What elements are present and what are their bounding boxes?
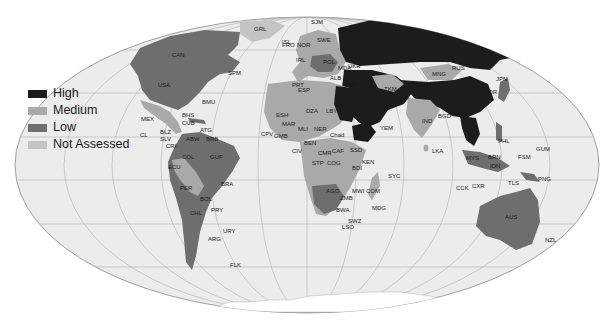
svg-text:TKM: TKM: [384, 86, 397, 92]
svg-text:MWI: MWI: [352, 188, 365, 194]
svg-text:ECU: ECU: [168, 164, 181, 170]
svg-text:YEM: YEM: [380, 125, 393, 131]
legend-swatch-high: [28, 90, 47, 98]
world-map: GRL ISL SJM CAN USA SPM BMU MEX BHS CUB …: [0, 0, 615, 329]
svg-text:RUS: RUS: [452, 65, 465, 71]
region-new-zealand: [558, 252, 572, 266]
svg-text:GMB: GMB: [274, 133, 288, 139]
svg-text:IRL: IRL: [296, 57, 306, 63]
svg-text:COM: COM: [366, 188, 380, 194]
svg-text:MEX: MEX: [141, 116, 154, 122]
svg-text:LSO: LSO: [342, 224, 354, 230]
legend-label-not-assessed: Not Assessed: [53, 136, 129, 153]
svg-text:BRB: BRB: [206, 136, 218, 142]
legend-swatch-not-assessed: [28, 141, 47, 149]
svg-text:BWA: BWA: [336, 207, 349, 213]
svg-text:ATG: ATG: [200, 127, 212, 133]
svg-text:NZL: NZL: [545, 237, 557, 243]
svg-text:SLV: SLV: [160, 136, 171, 142]
legend-item-medium: Medium: [28, 102, 129, 119]
svg-text:BHS: BHS: [182, 112, 194, 118]
svg-text:ABW: ABW: [186, 136, 200, 142]
svg-text:SWE: SWE: [317, 37, 331, 43]
svg-text:SYC: SYC: [388, 173, 401, 179]
svg-text:CHL: CHL: [190, 210, 203, 216]
svg-text:ALB: ALB: [330, 75, 341, 81]
svg-text:FLK: FLK: [230, 262, 241, 268]
svg-text:CMR: CMR: [318, 150, 332, 156]
svg-text:CPV: CPV: [261, 131, 273, 137]
svg-text:LKA: LKA: [432, 148, 443, 154]
legend-swatch-medium: [28, 107, 47, 115]
svg-text:IDN: IDN: [490, 163, 500, 169]
svg-text:POL: POL: [323, 59, 336, 65]
svg-text:ESP: ESP: [298, 87, 310, 93]
svg-text:CAN: CAN: [172, 52, 185, 58]
svg-text:PRY: PRY: [211, 207, 223, 213]
svg-text:CUB: CUB: [182, 120, 195, 126]
svg-text:MNG: MNG: [432, 71, 446, 77]
svg-text:FRO: FRO: [282, 42, 295, 48]
legend-label-high: High: [53, 85, 79, 102]
svg-text:NER: NER: [314, 126, 327, 132]
svg-text:FSM: FSM: [518, 154, 531, 160]
svg-text:GUF: GUF: [210, 154, 223, 160]
legend-label-low: Low: [53, 119, 76, 136]
svg-text:CHN: CHN: [442, 93, 455, 99]
svg-text:CL: CL: [140, 132, 148, 138]
svg-text:GRL: GRL: [254, 26, 267, 32]
svg-text:AFG: AFG: [396, 95, 409, 101]
svg-text:SPM: SPM: [228, 70, 241, 76]
svg-text:IND: IND: [422, 118, 433, 124]
svg-text:JPN: JPN: [496, 76, 507, 82]
legend-item-high: High: [28, 85, 129, 102]
legend-item-low: Low: [28, 119, 129, 136]
svg-text:DZA: DZA: [306, 108, 318, 114]
svg-text:BDI: BDI: [352, 165, 362, 171]
svg-text:MYS: MYS: [466, 155, 479, 161]
svg-text:BRN: BRN: [488, 154, 501, 160]
svg-text:KOR: KOR: [484, 89, 498, 95]
svg-text:AUS: AUS: [505, 214, 517, 220]
svg-text:BOL: BOL: [200, 196, 213, 202]
svg-text:Chad: Chad: [330, 132, 344, 138]
svg-text:SJM: SJM: [311, 19, 323, 25]
svg-text:ARG: ARG: [208, 236, 221, 242]
svg-text:ZMB: ZMB: [340, 195, 353, 201]
svg-text:MAR: MAR: [282, 121, 296, 127]
map-legend: High Medium Low Not Assessed: [28, 85, 129, 153]
svg-text:BGD: BGD: [438, 113, 452, 119]
svg-text:STP: STP: [312, 160, 324, 166]
svg-text:ESH: ESH: [276, 112, 288, 118]
svg-text:BRA: BRA: [221, 181, 233, 187]
svg-text:CIV: CIV: [292, 148, 302, 154]
svg-text:USA: USA: [158, 82, 170, 88]
svg-text:KEN: KEN: [362, 159, 374, 165]
svg-text:PNG: PNG: [538, 176, 551, 182]
svg-text:UKR: UKR: [348, 63, 361, 69]
svg-text:BMU: BMU: [202, 99, 215, 105]
svg-text:NOR: NOR: [297, 42, 311, 48]
svg-text:AGO: AGO: [326, 188, 340, 194]
svg-text:CCK: CCK: [456, 185, 469, 191]
legend-swatch-low: [28, 124, 47, 132]
svg-text:TLS: TLS: [508, 180, 519, 186]
svg-text:LBY: LBY: [326, 108, 337, 114]
svg-text:URY: URY: [223, 228, 236, 234]
svg-text:CAF: CAF: [332, 148, 344, 154]
svg-text:MDG: MDG: [372, 205, 386, 211]
legend-label-medium: Medium: [53, 102, 97, 119]
svg-text:CYP: CYP: [344, 82, 356, 88]
svg-text:SSD: SSD: [350, 147, 363, 153]
svg-text:COG: COG: [327, 160, 341, 166]
legend-item-not-assessed: Not Assessed: [28, 136, 129, 153]
region-sri-lanka: [424, 145, 429, 152]
svg-text:PHL: PHL: [498, 138, 510, 144]
svg-text:BEN: BEN: [304, 140, 316, 146]
svg-text:MLI: MLI: [298, 126, 308, 132]
svg-text:CXR: CXR: [472, 183, 485, 189]
svg-text:GUM: GUM: [536, 146, 550, 152]
svg-text:CRI: CRI: [166, 143, 177, 149]
svg-text:COL: COL: [182, 154, 195, 160]
svg-text:BLZ: BLZ: [160, 129, 171, 135]
